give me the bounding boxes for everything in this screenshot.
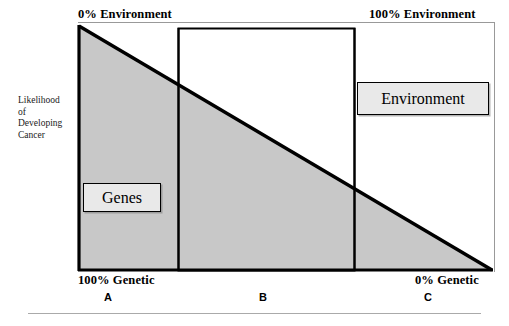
label-zero-percent-genetic: 0% Genetic (415, 273, 479, 288)
figure-container: 0% Environment 100% Environment 100% Gen… (0, 0, 509, 326)
callout-environment: Environment (357, 82, 489, 115)
y-axis-caption-line-4: Cancer (18, 130, 80, 142)
section-letter-a: A (98, 291, 118, 303)
label-hundred-percent-genetic: 100% Genetic (78, 273, 155, 288)
y-axis-caption-line-1: Likelihood (18, 95, 80, 107)
section-letter-c: C (418, 291, 438, 303)
callout-environment-label: Environment (381, 90, 465, 108)
y-axis-caption: Likelihood of Developing Cancer (18, 95, 80, 141)
callout-genes: Genes (83, 183, 161, 212)
callout-genes-label: Genes (102, 189, 142, 207)
label-hundred-percent-environment: 100% Environment (369, 7, 476, 22)
label-zero-percent-environment: 0% Environment (78, 7, 172, 22)
y-axis-caption-line-2: of (18, 107, 80, 119)
section-letter-b: B (253, 291, 273, 303)
y-axis-caption-line-3: Developing (18, 118, 80, 130)
